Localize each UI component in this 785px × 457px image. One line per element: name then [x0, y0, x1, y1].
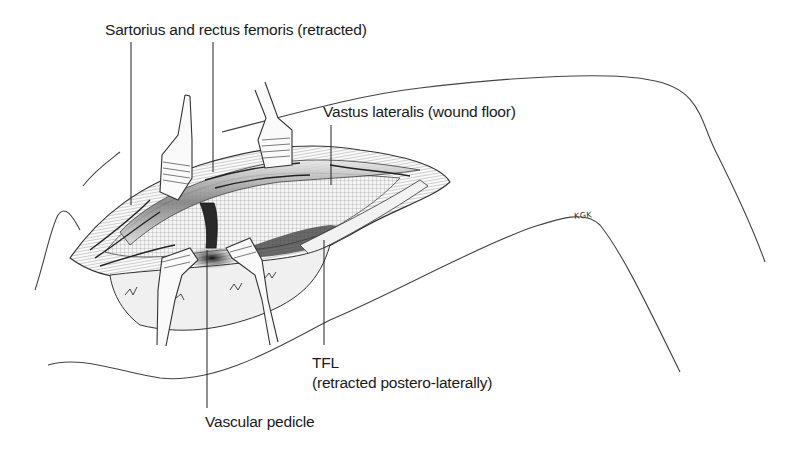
label-tfl: TFL	[312, 353, 339, 373]
label-tfl-note: (retracted postero-laterally)	[312, 373, 492, 393]
label-vascular-pedicle: Vascular pedicle	[205, 412, 314, 432]
label-vastus-lateralis: Vastus lateralis (wound floor)	[323, 102, 516, 122]
wound	[70, 146, 450, 330]
artist-signature: KGK	[574, 210, 593, 220]
label-sartorius-rectus-femoris: Sartorius and rectus femoris (retracted)	[105, 20, 367, 40]
